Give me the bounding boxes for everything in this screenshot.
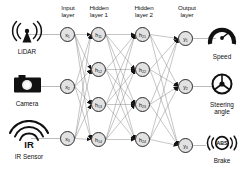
node-input-2: x2: [60, 79, 75, 94]
node-hidden1-2: h12: [91, 62, 106, 77]
actuator-steering: Steering angle: [200, 72, 244, 115]
node-hidden1-3-label: h13: [95, 102, 102, 108]
header-hidden-layer-2-line1: Hidden: [124, 4, 164, 11]
header-output-layer-line2: layer: [167, 11, 207, 18]
actuator-speed: Speed: [200, 24, 244, 60]
node-output-1-label: y1: [183, 36, 188, 42]
node-output-2-label: y2: [183, 84, 188, 90]
svg-text:ABS: ABS: [217, 140, 228, 146]
actuator-steering-label-line1: Steering: [210, 101, 234, 108]
lidar-antenna-icon: [5, 19, 49, 47]
sensor-camera-label: Camera: [16, 100, 39, 107]
node-hidden2-4: h24: [135, 132, 150, 147]
node-output-3: y3: [178, 138, 193, 153]
node-hidden1-1-label: h11: [95, 32, 102, 38]
node-hidden2-4-label: h24: [139, 137, 146, 143]
ir-wave-icon: IR: [5, 120, 53, 152]
actuator-speed-label: Speed: [213, 53, 231, 60]
node-hidden1-1: h11: [91, 27, 106, 42]
abs-brake-icon: ABS: [204, 134, 240, 156]
actuator-brake-label: Brake: [214, 157, 231, 164]
node-hidden2-2: h22: [135, 62, 150, 77]
sensor-lidar: LiDAR: [4, 19, 50, 55]
node-output-3-label: y3: [183, 143, 188, 149]
camera-icon: [5, 73, 49, 99]
node-hidden2-2-label: h22: [139, 67, 146, 73]
header-hidden-layer-1-line2: layer 1: [79, 11, 119, 18]
steering-wheel-icon: [208, 72, 236, 100]
node-input-3: x3: [60, 131, 75, 146]
neural-network-diagram: Input layer Hidden layer 1 Hidden layer …: [0, 0, 247, 173]
header-hidden-layer-1: Hidden layer 1: [79, 4, 119, 19]
node-hidden2-1-label: h21: [139, 32, 146, 38]
header-hidden-layer-2: Hidden layer 2: [124, 4, 164, 19]
node-output-1: y1: [178, 31, 193, 46]
svg-text:IR: IR: [24, 139, 34, 149]
node-hidden1-4-label: h14: [95, 137, 102, 143]
sensor-ir-label: IR Sensor: [15, 153, 43, 160]
node-hidden2-3: h23: [135, 97, 150, 112]
header-output-layer-line1: Output: [167, 4, 207, 11]
actuator-steering-label-line2: angle: [214, 108, 230, 115]
node-input-1: x1: [60, 27, 75, 42]
sensor-ir: IR IR Sensor: [4, 120, 54, 160]
node-input-1-label: x1: [65, 32, 70, 38]
actuator-brake: ABS Brake: [200, 134, 244, 164]
speedometer-icon: [207, 24, 237, 52]
node-hidden1-3: h13: [91, 97, 106, 112]
node-input-3-label: x3: [65, 136, 70, 142]
node-hidden2-1: h21: [135, 27, 150, 42]
header-hidden-layer-2-line2: layer 2: [124, 11, 164, 18]
node-input-2-label: x2: [65, 84, 70, 90]
header-hidden-layer-1-line1: Hidden: [79, 4, 119, 11]
sensor-camera: Camera: [4, 73, 50, 107]
node-hidden1-2-label: h12: [95, 67, 102, 73]
node-hidden2-3-label: h23: [139, 102, 146, 108]
node-hidden1-4: h14: [91, 132, 106, 147]
node-output-2: y2: [178, 79, 193, 94]
header-output-layer: Output layer: [167, 4, 207, 19]
sensor-lidar-label: LiDAR: [18, 48, 36, 55]
